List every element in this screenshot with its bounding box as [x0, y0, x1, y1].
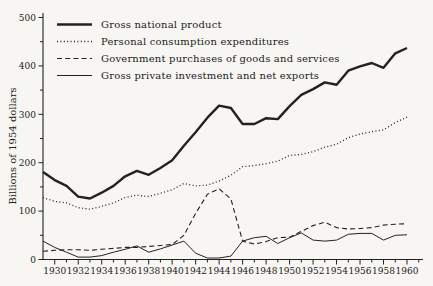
x-tick-label: 1932	[67, 266, 90, 276]
x-tick-label: 1940	[161, 266, 184, 276]
x-tick-label: 1944	[208, 266, 231, 276]
y-tick-label: 300	[19, 110, 36, 120]
x-tick-label: 1954	[325, 266, 348, 276]
legend-label: Personal consumption expenditures	[101, 36, 289, 47]
legend-label: Gross national product	[101, 19, 222, 30]
y-axis-label: Billions of 1954 dollars	[7, 87, 18, 204]
legend-line-sample	[57, 21, 92, 28]
x-tick-label: 1952	[302, 266, 325, 276]
legend-item: Gross private investment and net exports	[57, 67, 340, 84]
series-line-2	[43, 189, 407, 252]
y-tick-label: 400	[19, 61, 36, 71]
legend-line-sample	[57, 55, 92, 62]
x-tick-label: 1960	[396, 266, 419, 276]
legend-item: Gross national product	[57, 16, 340, 33]
y-tick-label: 500	[19, 13, 36, 23]
legend-item: Government purchases of goods and servic…	[57, 50, 340, 67]
chart-legend: Gross national productPersonal consumpti…	[57, 16, 340, 84]
x-tick-label: 1950	[278, 266, 301, 276]
x-tick-label: 1930	[43, 266, 66, 276]
y-tick-label: 200	[19, 158, 36, 168]
x-tick-label: 1938	[137, 266, 160, 276]
y-tick-label: 100	[19, 206, 36, 216]
x-tick-label: 1956	[349, 266, 372, 276]
y-tick-label: 0	[30, 255, 36, 265]
x-tick-label: 1958	[372, 266, 395, 276]
x-tick-label: 1948	[255, 266, 278, 276]
series-line-3	[43, 233, 407, 258]
legend-label: Government purchases of goods and servic…	[101, 53, 340, 64]
legend-line-sample	[57, 72, 92, 79]
x-tick-label: 1942	[184, 266, 207, 276]
x-tick-label: 1936	[114, 266, 137, 276]
legend-item: Personal consumption expenditures	[57, 33, 340, 50]
legend-label: Gross private investment and net exports	[101, 70, 319, 81]
x-tick-label: 1946	[231, 266, 254, 276]
x-tick-label: 1934	[90, 266, 113, 276]
chart-figure: 0100200300400500193019321934193619381940…	[0, 0, 433, 286]
legend-line-sample	[57, 38, 92, 45]
